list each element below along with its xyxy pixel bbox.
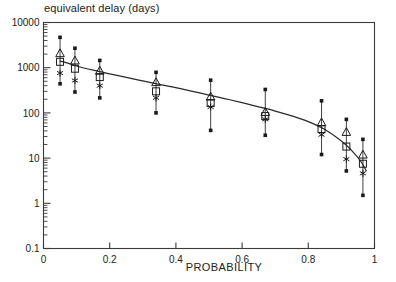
error-bar-cap xyxy=(58,36,62,40)
y-axis-tick-label: 10 xyxy=(28,153,40,164)
error-bar-cap xyxy=(73,90,77,94)
y-axis-tick-label: 0.1 xyxy=(26,243,40,254)
error-bar-cap xyxy=(98,96,102,100)
error-bar-cap xyxy=(320,153,324,157)
plot-frame xyxy=(44,23,375,249)
error-bar-cap xyxy=(345,169,349,173)
data-marker-asterisk xyxy=(72,77,78,84)
error-bar-cap xyxy=(154,111,158,115)
data-marker-asterisk xyxy=(343,156,349,163)
data-marker-asterisk xyxy=(57,70,63,77)
data-marker-asterisk xyxy=(97,82,103,89)
y-axis-tick-label: 10000 xyxy=(12,17,40,28)
data-marker-asterisk xyxy=(153,94,159,101)
x-axis-label: PROBABILITY xyxy=(0,261,396,273)
error-bar-cap xyxy=(98,59,102,63)
error-bar-cap xyxy=(263,88,267,92)
error-bar-cap xyxy=(345,118,349,122)
error-bar-cap xyxy=(209,129,213,133)
error-bar-cap xyxy=(73,46,77,50)
error-bar-cap xyxy=(154,71,158,75)
error-bar-cap xyxy=(263,133,267,137)
y-axis-tick-label: 1000 xyxy=(17,62,40,73)
error-bar-cap xyxy=(209,78,213,82)
error-bar-cap xyxy=(58,82,62,86)
data-marker-asterisk xyxy=(360,170,366,177)
x-axis-label-text: PROBABILITY xyxy=(186,261,263,273)
chart-plot-area: 0.111010010001000000.20.40.60.81 xyxy=(0,0,396,282)
error-bar-cap xyxy=(361,138,365,142)
error-bar-cap xyxy=(320,99,324,103)
y-axis-tick-label: 100 xyxy=(23,108,40,119)
chart-figure: equivalent delay (days) 0.11101001000100… xyxy=(0,0,396,282)
error-bar-cap xyxy=(361,194,365,198)
y-axis-tick-label: 1 xyxy=(34,198,40,209)
